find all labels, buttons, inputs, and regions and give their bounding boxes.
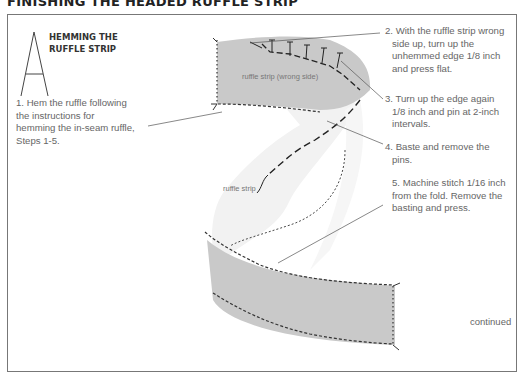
step-4-line: pins. bbox=[385, 154, 520, 167]
ruffle-wrong-side-bottom bbox=[207, 240, 395, 345]
step-1: 1. Hem the ruffle following the instruct… bbox=[16, 97, 156, 147]
continued-label: continued bbox=[470, 316, 511, 327]
step-5-line: basting and press. bbox=[392, 202, 522, 215]
step-4-line: 4. Baste and remove the bbox=[385, 141, 520, 154]
step-5-line: from the fold. Remove the bbox=[392, 190, 522, 203]
step-3: 3. Turn up the edge again 1/8 inch and p… bbox=[385, 93, 520, 131]
step-2-line: side up, turn up the bbox=[385, 38, 520, 51]
label-ruffle-wrong-side: ruffle strip (wrong side) bbox=[242, 72, 318, 81]
step-2: 2. With the ruffle strip wrong side up, … bbox=[385, 25, 520, 75]
step-3-line: 3. Turn up the edge again bbox=[385, 93, 520, 106]
step-5-line: 5. Machine stitch 1/16 inch bbox=[392, 177, 522, 190]
step-2-line: and press flat. bbox=[385, 63, 520, 76]
step-1-line: 1. Hem the ruffle following bbox=[16, 97, 156, 110]
step-3-line: 1/8 inch and pin at 2-inch bbox=[385, 106, 520, 119]
step-1-line: Steps 1-5. bbox=[16, 135, 156, 148]
step-5: 5. Machine stitch 1/16 inch from the fol… bbox=[392, 177, 522, 215]
step-2-line: 2. With the ruffle strip wrong bbox=[385, 25, 520, 38]
step-4: 4. Baste and remove the pins. bbox=[385, 141, 520, 166]
step-3-line: intervals. bbox=[385, 118, 520, 131]
step-2-line: unhemmed edge 1/8 inch bbox=[385, 50, 520, 63]
label-ruffle-strip: ruffle strip bbox=[223, 184, 256, 193]
step-1-line: hemming the in-seam ruffle, bbox=[16, 122, 156, 135]
step-1-line: the instructions for bbox=[16, 110, 156, 123]
